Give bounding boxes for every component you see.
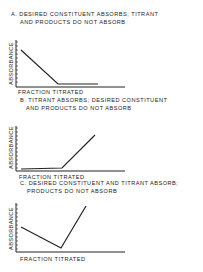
absorbance-line [21,50,98,84]
panel-a-plot [16,40,125,87]
absorbance-line [21,135,95,169]
axes [16,126,125,171]
axes [16,203,125,252]
panel-b-plot [16,126,125,171]
absorbance-line [21,206,86,248]
axes [16,40,125,87]
panel-c-plot [16,203,125,252]
charts-canvas [0,0,203,272]
